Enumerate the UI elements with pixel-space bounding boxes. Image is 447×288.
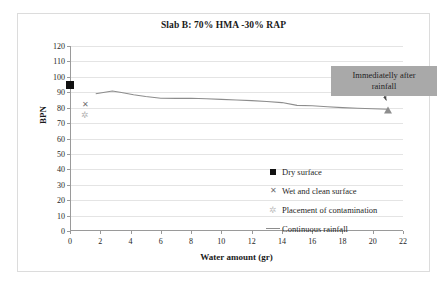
y-tick-label: 80 <box>39 103 65 112</box>
marker-placement-contamination: ✲ <box>81 111 89 120</box>
y-tick-mark <box>67 108 70 109</box>
marker-dry-surface <box>66 81 74 89</box>
line-marker-icon <box>266 228 280 229</box>
x-tick-label: 14 <box>270 237 294 246</box>
legend-key <box>264 228 282 229</box>
legend-key: ✲ <box>264 205 282 215</box>
legend-label: Continuous rainfall <box>282 224 348 234</box>
x-marker-icon: ✕ <box>270 186 277 195</box>
y-tick-mark <box>67 216 70 217</box>
legend-item[interactable]: ✕Wet and clean surface <box>264 181 429 200</box>
legend-label: Placement of contamination <box>282 205 377 215</box>
y-tick-label: 0 <box>39 227 65 236</box>
legend-label: Dry surface <box>282 167 322 177</box>
x-tick-label: 16 <box>300 237 324 246</box>
legend-key: ✕ <box>264 186 282 195</box>
square-marker-icon <box>270 169 276 175</box>
x-tick-label: 8 <box>179 237 203 246</box>
annotation-line-1: Immediatelly after <box>352 70 415 80</box>
y-tick-mark <box>67 169 70 170</box>
y-tick-label: 110 <box>39 57 65 66</box>
marker-wet-clean-surface: ✕ <box>82 101 89 109</box>
x-tick-label: 0 <box>58 237 82 246</box>
y-tick-mark <box>67 77 70 78</box>
x-tick-label: 2 <box>88 237 112 246</box>
legend-item[interactable]: Continuous rainfall <box>264 219 429 238</box>
x-tick-label: 12 <box>240 237 264 246</box>
chart-legend: Dry surface✕Wet and clean surface✲Placem… <box>264 162 429 238</box>
y-tick-mark <box>67 231 70 232</box>
y-tick-label: 10 <box>39 211 65 220</box>
y-tick-label: 100 <box>39 72 65 81</box>
x-tick-label: 18 <box>330 237 354 246</box>
y-tick-label: 60 <box>39 134 65 143</box>
y-tick-label: 40 <box>39 165 65 174</box>
legend-item[interactable]: Dry surface <box>264 162 429 181</box>
legend-key <box>264 169 282 175</box>
y-tick-mark <box>67 46 70 47</box>
x-tick-mark <box>131 231 132 234</box>
x-tick-mark <box>161 231 162 234</box>
chart-title: Slab B: 70% HMA -30% RAP <box>18 20 429 30</box>
x-axis-title: Water amount (gr) <box>70 252 403 262</box>
annotation-line-2: rainfall <box>372 81 397 91</box>
legend-item[interactable]: ✲Placement of contamination <box>264 200 429 219</box>
x-tick-mark <box>252 231 253 234</box>
x-tick-label: 20 <box>361 237 385 246</box>
y-tick-mark <box>67 61 70 62</box>
y-tick-label: 90 <box>39 88 65 97</box>
chart-frame: Slab B: 70% HMA -30% RAP BPN Water amoun… <box>17 13 430 272</box>
y-tick-mark <box>67 92 70 93</box>
annotation-immediately-after-rainfall: Immediatelly after rainfall <box>331 66 437 96</box>
x-tick-label: 4 <box>119 237 143 246</box>
y-tick-mark <box>67 185 70 186</box>
y-tick-label: 50 <box>39 149 65 158</box>
x-tick-label: 6 <box>149 237 173 246</box>
x-tick-label: 22 <box>391 237 415 246</box>
y-tick-label: 30 <box>39 180 65 189</box>
y-tick-label: 20 <box>39 196 65 205</box>
legend-label: Wet and clean surface <box>282 186 357 196</box>
y-tick-label: 70 <box>39 119 65 128</box>
x-tick-mark <box>70 231 71 234</box>
y-tick-mark <box>67 200 70 201</box>
x-tick-label: 10 <box>209 237 233 246</box>
y-tick-mark <box>67 154 70 155</box>
y-tick-mark <box>67 123 70 124</box>
x-tick-mark <box>221 231 222 234</box>
plus-marker-icon: ✲ <box>269 205 277 215</box>
x-tick-mark <box>100 231 101 234</box>
y-axis-tick-labels: 0102030405060708090100110120 <box>39 46 65 231</box>
x-tick-mark <box>191 231 192 234</box>
y-tick-label: 120 <box>39 42 65 51</box>
marker-rainfall-endpoint <box>384 107 392 114</box>
y-tick-mark <box>67 139 70 140</box>
